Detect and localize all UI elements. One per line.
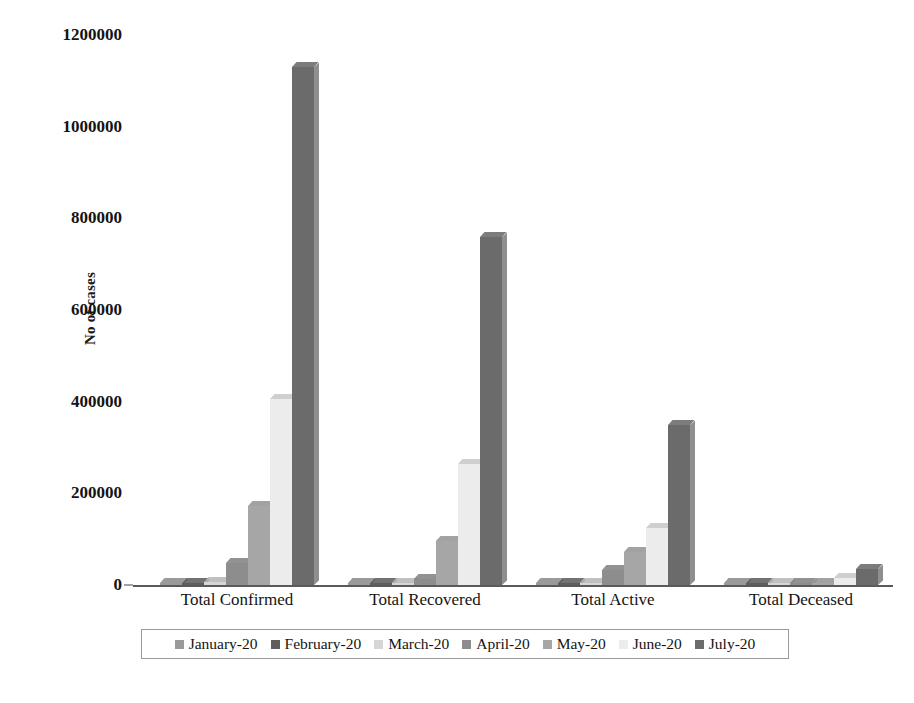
bar-face [292, 67, 314, 585]
y-axis-tick-label: 800000 [38, 208, 122, 228]
legend-item-march-20[interactable]: March-20 [374, 636, 449, 652]
legend-swatch-icon [462, 640, 471, 649]
bar-face [480, 237, 502, 585]
bar-may-20-total-recovered [436, 541, 458, 585]
y-axis-tick-labels: 020000040000060000080000010000001200000 [38, 0, 122, 703]
legend-item-july-20[interactable]: July-20 [695, 636, 756, 652]
bar-chart: No of cases 0200000400000600000800000100… [0, 0, 914, 703]
legend-label: February-20 [285, 636, 362, 652]
bar-july-20-total-confirmed [292, 67, 314, 585]
bar-june-20-total-confirmed [270, 399, 292, 585]
bar-face [856, 569, 878, 585]
y-axis-zero-tick [124, 585, 133, 586]
y-axis-tick-label: 1000000 [38, 117, 122, 137]
legend-swatch-icon [695, 640, 704, 649]
bar-april-20-total-confirmed [226, 563, 248, 585]
x-axis-label-total-confirmed: Total Confirmed [181, 590, 294, 610]
legend-label: January-20 [189, 636, 258, 652]
bar-face [668, 425, 690, 585]
bar-july-20-total-active [668, 425, 690, 585]
x-axis-label-total-deceased: Total Deceased [749, 590, 853, 610]
legend-label: April-20 [476, 636, 529, 652]
bar-july-20-total-deceased [856, 569, 878, 585]
bar-face [458, 464, 480, 585]
legend-label: May-20 [557, 636, 606, 652]
bar-face [646, 528, 668, 585]
chart-legend: January-20February-20March-20April-20May… [141, 629, 789, 659]
legend-item-may-20[interactable]: May-20 [543, 636, 606, 652]
bar-side [690, 420, 695, 585]
legend-swatch-icon [175, 640, 184, 649]
bar-side [878, 565, 883, 585]
legend-swatch-icon [374, 640, 383, 649]
x-axis-line [133, 585, 893, 587]
legend-item-april-20[interactable]: April-20 [462, 636, 529, 652]
x-axis-category-labels: Total ConfirmedTotal RecoveredTotal Acti… [133, 590, 885, 620]
legend-item-june-20[interactable]: June-20 [619, 636, 682, 652]
legend-label: July-20 [709, 636, 756, 652]
legend-swatch-icon [543, 640, 552, 649]
bar-group [536, 35, 690, 585]
bar-group [160, 35, 314, 585]
legend-swatch-icon [271, 640, 280, 649]
legend-label: March-20 [388, 636, 449, 652]
bar-may-20-total-confirmed [248, 506, 270, 585]
y-axis-tick-label: 0 [38, 575, 122, 595]
bar-may-20-total-active [624, 552, 646, 585]
bar-face [436, 541, 458, 585]
bar-face [834, 578, 856, 585]
x-axis-label-total-recovered: Total Recovered [369, 590, 481, 610]
legend-label: June-20 [633, 636, 682, 652]
legend-swatch-icon [619, 640, 628, 649]
x-axis-label-total-active: Total Active [571, 590, 654, 610]
bar-face [270, 399, 292, 585]
bar-face [624, 552, 646, 585]
bar-july-20-total-recovered [480, 237, 502, 585]
bar-face [248, 506, 270, 585]
bar-face [226, 563, 248, 585]
y-axis-tick-label: 200000 [38, 483, 122, 503]
bar-june-20-total-recovered [458, 464, 480, 585]
bar-face [602, 570, 624, 585]
bar-side [502, 232, 507, 585]
bar-april-20-total-active [602, 570, 624, 585]
bar-group [724, 35, 878, 585]
y-axis-tick-label: 1200000 [38, 25, 122, 45]
legend-item-january-20[interactable]: January-20 [175, 636, 258, 652]
y-axis-tick-label: 600000 [38, 300, 122, 320]
y-axis-tick-label: 400000 [38, 392, 122, 412]
bar-side [314, 63, 319, 585]
bar-june-20-total-deceased [834, 578, 856, 585]
plot-area [133, 35, 885, 585]
legend-item-february-20[interactable]: February-20 [271, 636, 362, 652]
bar-june-20-total-active [646, 528, 668, 585]
bar-group [348, 35, 502, 585]
